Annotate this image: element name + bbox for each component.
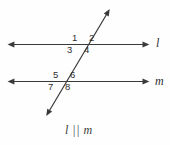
angle-label-6: 6: [70, 70, 75, 80]
line-label-l: l: [156, 37, 159, 49]
angle-label-5: 5: [53, 70, 58, 80]
angle-label-3: 3: [67, 45, 72, 55]
angle-label-8: 8: [65, 82, 70, 92]
figure-caption: l || m: [65, 124, 93, 136]
angle-label-2: 2: [89, 33, 94, 43]
line-label-m: m: [155, 75, 164, 87]
angle-label-7: 7: [48, 82, 53, 92]
angle-label-4: 4: [84, 45, 89, 55]
transversal-line: [48, 12, 108, 113]
angle-label-1: 1: [72, 33, 77, 43]
geometry-diagram: 1 2 3 4 5 6 7 8 l m l || m: [0, 0, 170, 145]
